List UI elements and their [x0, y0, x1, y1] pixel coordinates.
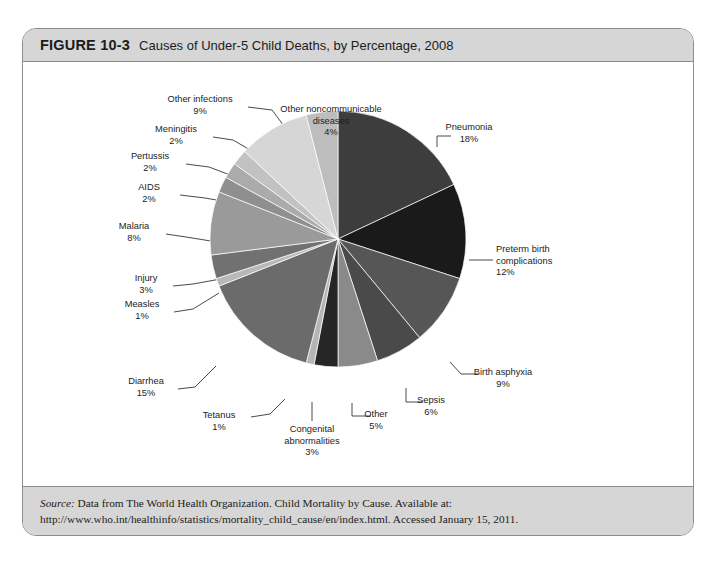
pie-chart-plot-area: Other noncommunicable diseases 4% Other … — [23, 62, 693, 486]
pie-label-other-noncommunicable: Other noncommunicable diseases 4% — [251, 104, 411, 139]
figure-caption: Causes of Under-5 Child Deaths, by Perce… — [139, 38, 453, 53]
label-text-line1: Congenital — [290, 424, 334, 434]
pie-label-pneumonia: Pneumonia 18% — [429, 122, 509, 145]
label-text: Other infections — [167, 94, 232, 104]
pie-chart — [209, 110, 467, 368]
label-text: Other — [364, 409, 387, 419]
pie-label-other: Other 5% — [354, 409, 398, 432]
label-text: Measles — [125, 299, 160, 309]
label-pct: 6% — [406, 407, 456, 419]
label-text-line2: complications — [496, 256, 552, 266]
pie-label-congenital-abnormalities: Congenital abnormalities 3% — [261, 424, 363, 459]
pie-label-meningitis: Meningitis 2% — [140, 124, 212, 147]
pie-label-malaria: Malaria 8% — [105, 221, 163, 244]
label-text: AIDS — [138, 182, 160, 192]
label-pct: 2% — [116, 163, 184, 175]
label-pct: 15% — [115, 388, 177, 400]
label-pct: 8% — [105, 233, 163, 245]
figure-header: FIGURE 10-3 Causes of Under-5 Child Deat… — [23, 29, 693, 62]
label-text-line2: abnormalities — [284, 436, 339, 446]
label-text: Sepsis — [417, 395, 445, 405]
label-pct: 3% — [121, 285, 171, 297]
label-text: Injury — [135, 273, 158, 283]
label-pct: 2% — [140, 136, 212, 148]
pie-label-tetanus: Tetanus 1% — [189, 410, 249, 433]
label-pct: 5% — [354, 421, 398, 433]
figure-source-note: Source: Data from The World Health Organ… — [23, 486, 693, 535]
pie-svg — [209, 110, 467, 368]
label-pct: 9% — [153, 106, 247, 118]
label-text: Tetanus — [203, 410, 236, 420]
label-pct: 4% — [251, 127, 411, 139]
figure-box: FIGURE 10-3 Causes of Under-5 Child Deat… — [22, 28, 694, 536]
pie-label-pertussis: Pertussis 2% — [116, 151, 184, 174]
label-text-line1: Preterm birth — [496, 244, 550, 254]
pie-label-measles: Measles 1% — [112, 299, 172, 322]
pie-label-birth-asphyxia: Birth asphyxia 9% — [461, 367, 545, 390]
label-pct: 9% — [461, 379, 545, 391]
label-text: Birth asphyxia — [474, 367, 532, 377]
source-label: Source: — [40, 497, 75, 509]
label-text: Pertussis — [131, 151, 169, 161]
pie-label-injury: Injury 3% — [121, 273, 171, 296]
label-text: Meningitis — [155, 124, 197, 134]
label-text-line2: diseases — [313, 116, 350, 126]
pie-label-other-infections: Other infections 9% — [153, 94, 247, 117]
figure-number: FIGURE 10-3 — [40, 37, 130, 53]
pie-label-aids: AIDS 2% — [121, 182, 177, 205]
label-pct: 1% — [189, 422, 249, 434]
label-text: Diarrhea — [128, 376, 164, 386]
label-pct: 3% — [261, 447, 363, 459]
label-text-line1: Other noncommunicable — [280, 104, 381, 114]
pie-label-preterm-birth-complications: Preterm birth complications 12% — [496, 244, 596, 279]
label-pct: 18% — [429, 134, 509, 146]
label-text: Malaria — [119, 221, 149, 231]
pie-label-sepsis: Sepsis 6% — [406, 395, 456, 418]
label-pct: 2% — [121, 194, 177, 206]
label-text: Pneumonia — [445, 122, 492, 132]
source-body: Data from The World Health Organization.… — [40, 497, 518, 525]
label-pct: 1% — [112, 311, 172, 323]
label-pct: 12% — [496, 267, 596, 279]
pie-label-diarrhea: Diarrhea 15% — [115, 376, 177, 399]
